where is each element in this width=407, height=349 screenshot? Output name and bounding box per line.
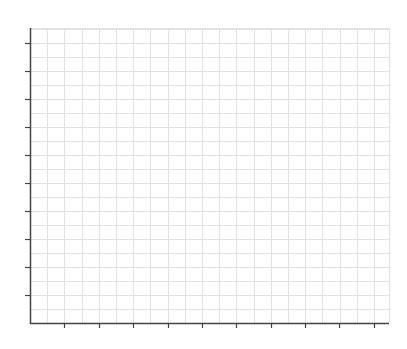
grid-lines [30,28,390,323]
chart-canvas [0,0,407,349]
axes [25,28,389,328]
